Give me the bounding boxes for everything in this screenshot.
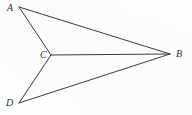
vertex-label-d: D <box>6 98 13 108</box>
segment-ac <box>19 7 51 55</box>
segment-cb <box>51 54 170 55</box>
segment-ab <box>19 7 170 54</box>
vertex-label-a: A <box>7 3 13 13</box>
vertex-label-b: B <box>176 49 182 59</box>
geometry-figure: ABCD <box>0 0 192 115</box>
segment-cd <box>19 55 51 103</box>
segment-db <box>19 54 170 103</box>
figure-canvas <box>0 0 192 115</box>
vertex-label-c: C <box>40 50 47 60</box>
